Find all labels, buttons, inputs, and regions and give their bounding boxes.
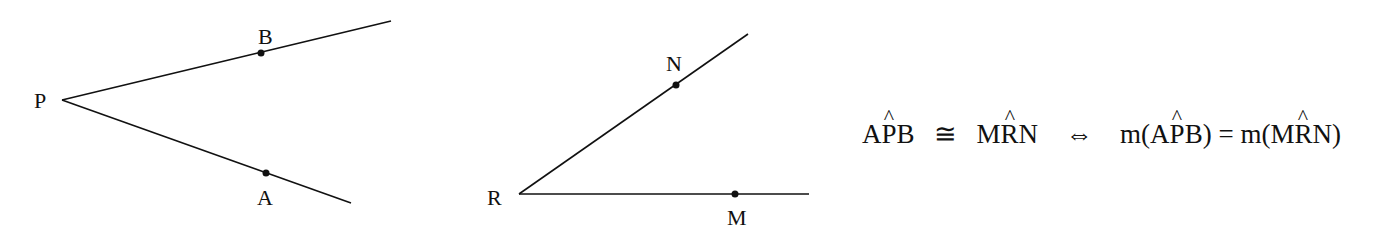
point-b-label: B — [258, 24, 273, 49]
measure-function: m — [1120, 119, 1141, 150]
equals-symbol: = — [1218, 119, 1233, 150]
vertex-p-label: P — [34, 88, 46, 113]
point-n-dot — [673, 82, 680, 89]
congruent-symbol: ≅ — [934, 118, 957, 150]
measure-mrn: m(MRN) — [1240, 119, 1341, 150]
measure-function: m — [1240, 119, 1261, 150]
ray-pb — [62, 21, 391, 100]
angle-vertex-hat: R — [1294, 119, 1312, 150]
angle-mrn-term: MRN — [977, 119, 1039, 150]
angle-letter: B — [897, 119, 915, 150]
point-a-label: A — [257, 185, 273, 210]
ray-rn — [519, 34, 748, 194]
point-b-dot — [258, 50, 265, 57]
angle-vertex-hat: R — [1001, 119, 1019, 150]
angle-vertex-hat: P — [882, 119, 897, 150]
angle-letter: M — [977, 119, 1001, 150]
point-a-dot — [263, 170, 270, 177]
close-paren: ) — [1332, 119, 1341, 150]
angle-letter: N — [1312, 119, 1332, 150]
point-m-label: M — [727, 205, 747, 230]
angle-vertex-hat: P — [1170, 119, 1185, 150]
measure-apb: m(APB) — [1120, 119, 1212, 150]
close-paren: ) — [1203, 119, 1212, 150]
congruence-formula: APB ≅ MRN ⇔ m(APB) = m(MRN) — [862, 118, 1341, 150]
iff-symbol: ⇔ — [1066, 119, 1093, 150]
angle-letter: M — [1270, 119, 1294, 150]
angle-apb-term: APB — [862, 119, 915, 150]
point-m-dot — [732, 191, 739, 198]
angle-letter: A — [862, 119, 882, 150]
point-n-label: N — [666, 51, 682, 76]
angle-apb-figure: P B A — [34, 21, 391, 210]
angle-letter: N — [1019, 119, 1039, 150]
open-paren: ( — [1261, 119, 1270, 150]
open-paren: ( — [1141, 119, 1150, 150]
ray-pa — [62, 100, 351, 203]
angle-mrn-figure: R N M — [487, 34, 809, 230]
vertex-r-label: R — [487, 185, 502, 210]
angle-letter: A — [1150, 119, 1170, 150]
angle-letter: B — [1185, 119, 1203, 150]
